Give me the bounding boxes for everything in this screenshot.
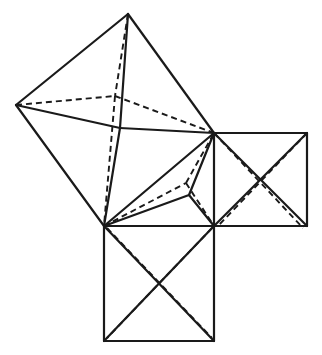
- hidden-edge: [104, 183, 186, 226]
- visible-edge: [16, 105, 120, 128]
- visible-edge: [120, 14, 128, 128]
- visible-edge: [128, 14, 214, 133]
- visible-edge: [16, 105, 104, 226]
- visible-edge: [104, 195, 189, 226]
- visible-edge: [120, 128, 214, 133]
- visible-edge: [104, 133, 214, 226]
- visible-edge: [16, 14, 128, 105]
- hidden-edge: [104, 96, 115, 226]
- visible-edge: [104, 128, 120, 226]
- pythagorean-pyramid-diagram: [0, 0, 322, 355]
- hidden-edge: [16, 96, 115, 105]
